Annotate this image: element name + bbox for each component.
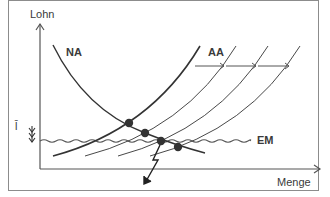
equilibrium-point (125, 119, 133, 127)
diagram-frame (9, 1, 319, 191)
lightning-arrow-icon (144, 145, 160, 184)
demand-curve (53, 45, 205, 153)
labor-market-diagram: Lohn Menge EM l̄ AA NA (0, 0, 330, 197)
shift-arrows (195, 63, 289, 69)
min-wage-label: EM (257, 134, 274, 146)
wage-marker-label: l̄ (14, 120, 18, 132)
min-wage-line (40, 140, 251, 143)
equilibrium-point (141, 129, 149, 137)
y-axis-label: Lohn (30, 8, 54, 20)
x-axis-label: Menge (277, 176, 311, 188)
downward-chevrons-icon (29, 126, 35, 142)
demand-label: NA (66, 46, 82, 58)
equilibrium-point (174, 143, 182, 151)
equilibrium-point (157, 137, 165, 145)
supply-label: AA (208, 46, 224, 58)
